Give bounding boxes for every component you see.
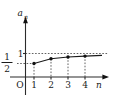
x-tick-label-2: 2 [48, 80, 54, 90]
chart-canvas: a n n O 1 1 2 1 2 3 4 [0, 0, 114, 97]
y-axis-label-subscript: n [24, 13, 28, 20]
x-tick-label-3: 3 [65, 80, 71, 90]
y-tick-label-1: 1 [18, 49, 24, 59]
data-point-1 [32, 62, 35, 65]
sequence-plot-figure: a n n O 1 1 2 1 2 3 4 [0, 0, 114, 97]
data-point-4 [83, 54, 86, 57]
y-axis-label: a [18, 8, 23, 18]
data-point-2 [49, 57, 52, 60]
half-fraction-numerator: 1 [4, 52, 10, 62]
half-fraction-denominator: 2 [4, 64, 10, 74]
data-point-3 [66, 55, 69, 58]
x-axis-label: n [96, 80, 102, 90]
x-tick-label-4: 4 [82, 80, 88, 90]
origin-label: O [16, 80, 23, 90]
x-tick-label-1: 1 [31, 80, 37, 90]
